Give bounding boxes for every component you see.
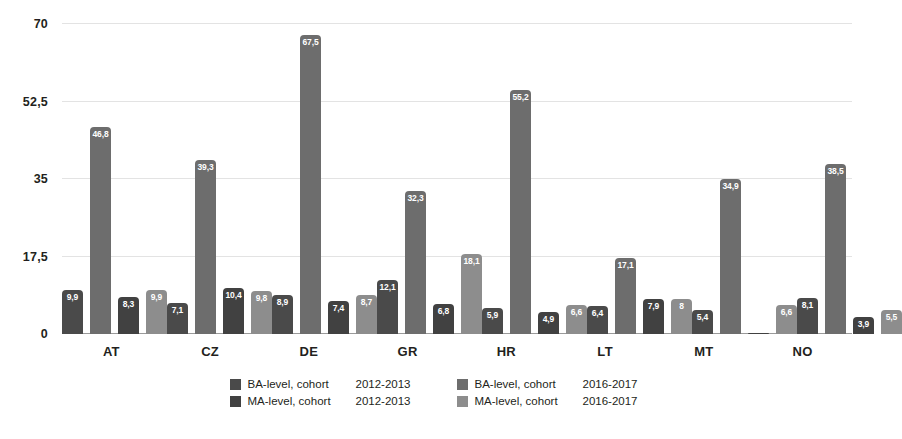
bar-group-gr: 12,132,36,818,1	[377, 24, 482, 334]
bar-value-label: 6,6	[781, 308, 793, 317]
bar[interactable]: 8,1	[797, 298, 818, 334]
x-axis-tick-label: CZ	[161, 336, 260, 362]
bar[interactable]: 8,7	[356, 295, 377, 334]
legend-swatch-icon	[457, 379, 468, 390]
bar-value-label: 34,9	[722, 182, 738, 191]
y-axis-tick-label: 70	[34, 17, 48, 31]
legend-columns: BA-level, cohort2012-2013MA-level, cohor…	[230, 378, 638, 407]
bar[interactable]: 3,9	[853, 317, 874, 334]
bar-value-label: 5,5	[886, 313, 898, 322]
bar[interactable]: 32,3	[405, 191, 426, 334]
bar[interactable]: 39,3	[195, 160, 216, 334]
bar[interactable]: 55,2	[510, 90, 531, 334]
bar[interactable]: 6,4	[587, 306, 608, 334]
y-axis-tick-label: 17,5	[23, 250, 48, 264]
bar[interactable]: 6,6	[776, 305, 797, 334]
y-axis: 017,53552,570	[0, 24, 56, 334]
bar-value-label: 7,4	[333, 304, 345, 313]
bar[interactable]: 12,1	[377, 280, 398, 334]
bar[interactable]: 5,9	[482, 308, 503, 334]
x-axis-tick-label: DE	[260, 336, 359, 362]
bar[interactable]: 6,8	[433, 304, 454, 334]
bar[interactable]: 7,4	[328, 301, 349, 334]
bar-value-label: 38,5	[827, 167, 843, 176]
bar-group-cz: 7,139,310,49,8	[167, 24, 272, 334]
bar[interactable]: 67,5	[300, 35, 321, 334]
legend-cohort-label: 2016-2017	[583, 395, 638, 407]
bar-value-label: 17,1	[617, 261, 633, 270]
bar-value-label: 4,9	[543, 315, 555, 324]
x-axis: ATCZDEGRHRLTMTNO	[62, 336, 852, 362]
bar[interactable]: 46,8	[90, 127, 111, 334]
bar[interactable]: 34,9	[720, 179, 741, 334]
bar-value-label: 6,6	[571, 308, 583, 317]
bar[interactable]: 4,9	[538, 312, 559, 334]
bar[interactable]: 8,9	[272, 295, 293, 334]
legend-cohort-label: 2016-2017	[583, 378, 638, 390]
bar-value-label: 7,1	[172, 306, 184, 315]
legend-swatch-icon	[230, 379, 241, 390]
bar[interactable]: 7,1	[167, 303, 188, 334]
bar-value-label: 8,1	[802, 301, 814, 310]
bar[interactable]: 8,3	[118, 297, 139, 334]
x-axis-tick-label: GR	[358, 336, 457, 362]
y-axis-tick-label: 35	[34, 172, 48, 186]
bar-group-no: 8,138,53,95,5	[797, 24, 902, 334]
bar-value-label: 18,1	[463, 257, 479, 266]
bar-value-label: 9,8	[256, 294, 268, 303]
bar-group-hr: 5,955,24,96,6	[482, 24, 587, 334]
legend-item[interactable]: MA-level, cohort2016-2017	[457, 395, 638, 407]
bar-value-label: 5,4	[697, 313, 709, 322]
bar[interactable]: 8	[671, 299, 692, 334]
bar-value-label: 6,4	[592, 309, 604, 318]
legend-series-label: MA-level, cohort	[475, 395, 583, 407]
chart-legend: BA-level, cohort2012-2013MA-level, cohor…	[0, 378, 867, 407]
bar[interactable]: 5,5	[881, 310, 902, 334]
x-axis-tick-label: NO	[753, 336, 852, 362]
plot-area: 9,946,88,39,97,139,310,49,88,967,57,48,7…	[62, 24, 852, 334]
bar[interactable]: 9,9	[62, 290, 83, 334]
bar-value-label: 6,8	[438, 307, 450, 316]
bar-value-label: 9,9	[67, 293, 79, 302]
bar-value-label: 8,9	[277, 298, 289, 307]
bar-value-label: 9,9	[151, 293, 163, 302]
bar-value-label: 32,3	[407, 194, 423, 203]
bar[interactable]: 7,9	[643, 299, 664, 334]
bar-value-label: 12,1	[379, 283, 395, 292]
bar[interactable]	[748, 333, 769, 335]
legend-cohort-label: 2012-2013	[356, 378, 411, 390]
y-axis-tick-label: 0	[41, 327, 48, 341]
bar[interactable]: 10,4	[223, 288, 244, 334]
y-axis-tick-label: 52,5	[23, 95, 48, 109]
bar-value-label: 55,2	[512, 93, 528, 102]
bar[interactable]: 9,8	[251, 291, 272, 334]
legend-item[interactable]: BA-level, cohort2016-2017	[457, 378, 638, 390]
x-axis-tick-label: AT	[62, 336, 161, 362]
bar[interactable]: 5,4	[692, 310, 713, 334]
bar[interactable]: 18,1	[461, 254, 482, 334]
bar-group-de: 8,967,57,48,7	[272, 24, 377, 334]
bar[interactable]: 6,6	[566, 305, 587, 334]
bar-value-label: 8	[679, 302, 684, 311]
bar-group-mt: 5,434,96,6	[692, 24, 797, 334]
bar-value-label: 8,3	[123, 300, 135, 309]
bar-value-label: 46,8	[92, 130, 108, 139]
legend-item[interactable]: MA-level, cohort2012-2013	[230, 395, 411, 407]
bar-value-label: 39,3	[197, 163, 213, 172]
bar-group-lt: 6,417,17,98	[587, 24, 692, 334]
bar-value-label: 67,5	[302, 38, 318, 47]
bar[interactable]: 17,1	[615, 258, 636, 334]
bar[interactable]: 9,9	[146, 290, 167, 334]
x-axis-tick-label: HR	[457, 336, 556, 362]
legend-item[interactable]: BA-level, cohort2012-2013	[230, 378, 411, 390]
bar-groups: 9,946,88,39,97,139,310,49,88,967,57,48,7…	[62, 24, 852, 334]
bar[interactable]: 38,5	[825, 164, 846, 335]
x-axis-tick-label: MT	[655, 336, 754, 362]
legend-swatch-icon	[230, 396, 241, 407]
legend-series-label: MA-level, cohort	[248, 395, 356, 407]
bar-value-label: 10,4	[225, 291, 241, 300]
legend-series-label: BA-level, cohort	[475, 378, 583, 390]
legend-cohort-label: 2012-2013	[356, 395, 411, 407]
bar-value-label: 5,9	[487, 311, 499, 320]
